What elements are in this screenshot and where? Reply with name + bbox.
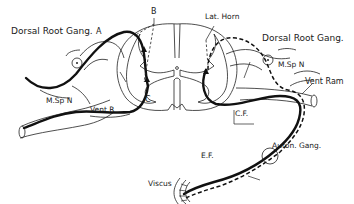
label-auton-gang: Auton. Gang. xyxy=(272,142,321,150)
leader-ef xyxy=(248,176,260,180)
leader-lat-horn xyxy=(206,26,214,40)
label-a: A xyxy=(96,28,101,36)
label-dorsal-root-gang-right: Dorsal Root Gang. xyxy=(262,34,344,43)
label-c-f: C.F. xyxy=(235,110,248,118)
label-vent-r: Vent.R xyxy=(90,106,114,114)
label-c: C xyxy=(145,96,151,104)
label-b: B xyxy=(151,8,157,16)
label-dorsal-root-gang-left: Dorsal Root Gang. xyxy=(11,27,93,36)
left-efferent-fiber xyxy=(24,86,148,128)
label-lat-horn: Lat. Horn xyxy=(205,13,239,21)
label-vent-ram: Vent Ram xyxy=(305,78,344,86)
label-e-f: E.F. xyxy=(201,152,214,160)
label-m-sp-n-left: M.Sp N xyxy=(46,97,72,105)
line-b xyxy=(144,24,154,82)
label-viscus: Viscus xyxy=(148,180,172,188)
leader-vent-r xyxy=(120,72,126,82)
left-afferent-fiber xyxy=(26,32,148,88)
spinal-cord xyxy=(117,24,237,111)
label-m-sp-n-right: M.Sp N xyxy=(278,61,304,69)
